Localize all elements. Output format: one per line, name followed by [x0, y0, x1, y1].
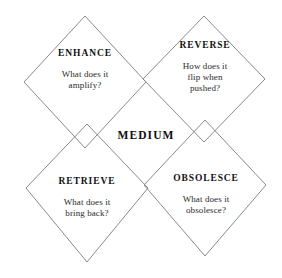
quadrant-enhance: ENHANCE What does it amplify?: [25, 48, 145, 91]
quadrant-obsolesce-question-line-2: obsolesce?: [145, 205, 267, 216]
center-label-medium: MEDIUM: [86, 129, 206, 141]
quadrant-obsolesce-question: What does it obsolesce?: [145, 194, 267, 216]
quadrant-reverse-title: REVERSE: [145, 40, 265, 52]
tetrad-diagram: ENHANCE What does it amplify? REVERSE Ho…: [0, 0, 282, 278]
quadrant-retrieve-question-line-1: What does it: [27, 197, 147, 208]
quadrant-enhance-question-line-1: What does it: [25, 69, 145, 80]
quadrant-enhance-question: What does it amplify?: [25, 69, 145, 91]
quadrant-obsolesce: OBSOLESCE What does it obsolesce?: [145, 173, 267, 216]
quadrant-retrieve: RETRIEVE What does it bring back?: [27, 176, 147, 219]
quadrant-reverse-question: How does it flip when pushed?: [145, 61, 265, 94]
quadrant-enhance-title: ENHANCE: [25, 48, 145, 60]
quadrant-reverse-question-line-1: How does it: [145, 61, 265, 72]
quadrant-reverse-question-line-2: flip when: [145, 72, 265, 83]
quadrant-obsolesce-title: OBSOLESCE: [145, 173, 267, 185]
quadrant-obsolesce-question-line-1: What does it: [145, 194, 267, 205]
quadrant-reverse-question-line-3: pushed?: [145, 83, 265, 94]
quadrant-enhance-question-line-2: amplify?: [25, 80, 145, 91]
quadrant-retrieve-question: What does it bring back?: [27, 197, 147, 219]
quadrant-retrieve-title: RETRIEVE: [27, 176, 147, 188]
quadrant-reverse: REVERSE How does it flip when pushed?: [145, 40, 265, 93]
quadrant-retrieve-question-line-2: bring back?: [27, 208, 147, 219]
